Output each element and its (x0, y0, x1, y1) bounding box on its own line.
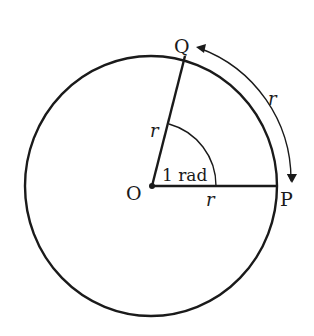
radian-diagram: Q O P r r r 1 rad (0, 0, 314, 336)
label-q: Q (174, 35, 190, 57)
label-radius-oq: r (150, 120, 160, 141)
label-radius-op: r (206, 189, 216, 210)
arrowhead-p-icon (287, 174, 297, 183)
arc-length-arrow (199, 48, 291, 180)
label-arc-pq: r (268, 88, 278, 109)
label-p: P (280, 188, 293, 210)
center-dot (149, 183, 155, 189)
arrowhead-q-icon (196, 44, 206, 53)
label-o: O (126, 182, 142, 204)
label-angle: 1 rad (162, 165, 207, 185)
